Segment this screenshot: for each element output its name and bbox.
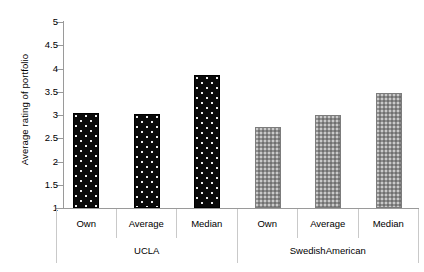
bar [255, 127, 281, 208]
x-axis-group-label: UCLA [56, 238, 238, 263]
bar [376, 93, 402, 208]
y-tick-label: 4.5 [18, 40, 58, 49]
bar [315, 115, 341, 208]
y-tick-label: 4 [18, 64, 58, 73]
bar-chart-figure: Average rating of portfolio 11.522.533.5… [0, 0, 424, 272]
x-axis-category-label: Own [56, 209, 117, 238]
y-tick-label: 3.5 [18, 87, 58, 96]
y-tick-label: 2.5 [18, 133, 58, 142]
x-axis-category-label: Median [359, 209, 420, 238]
x-axis-category-label: Average [298, 209, 359, 238]
y-tick-label: 3 [18, 110, 58, 119]
plot-area [63, 22, 419, 208]
x-axis-group-row: UCLASwedishAmerican [56, 238, 419, 263]
bar [73, 113, 99, 208]
x-axis-category-row: OwnAverageMedianOwnAverageMedian [56, 209, 419, 238]
y-tick-label: 1 [18, 203, 58, 212]
y-tick-label: 5 [18, 17, 58, 26]
bar [194, 75, 220, 208]
y-tick-label: 2 [18, 157, 58, 166]
x-axis-category-label: Median [177, 209, 238, 238]
x-axis-table: OwnAverageMedianOwnAverageMedian UCLASwe… [56, 209, 419, 263]
x-axis-group-label: SwedishAmerican [238, 238, 420, 263]
bar [134, 114, 160, 208]
x-axis-category-label: Own [238, 209, 299, 238]
y-tick-label: 1.5 [18, 180, 58, 189]
x-axis-category-label: Average [117, 209, 178, 238]
